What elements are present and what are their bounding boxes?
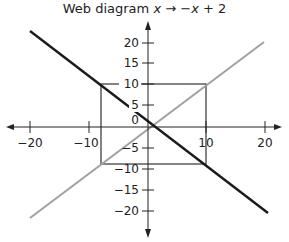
y-label-neg10: −10	[114, 162, 139, 176]
y-label-20: 20	[124, 36, 139, 50]
identity-line	[30, 42, 264, 218]
y-label-10: 10	[124, 77, 139, 91]
function-line	[30, 31, 268, 213]
x-label-neg20: −20	[17, 136, 42, 150]
y-label-5: 5	[131, 98, 139, 112]
x-label-neg10: −10	[73, 136, 98, 150]
y-axis-down-arrow-icon	[145, 229, 151, 238]
x-axis-right-arrow-icon	[274, 124, 282, 130]
y-label-neg5: −5	[121, 141, 139, 155]
y-axis-up-arrow-icon	[145, 21, 151, 30]
x-axis-left-arrow-icon	[6, 124, 14, 130]
y-label-15: 15	[124, 56, 139, 70]
y-label-neg15: −15	[114, 183, 139, 197]
web-diagram-plot: −20 −10 10 20 20 15 10 5 0 −5 −10 −15 −2…	[0, 0, 289, 242]
x-label-10: 10	[198, 136, 213, 150]
y-label-neg20: −20	[114, 204, 139, 218]
y-label-0: 0	[131, 113, 139, 127]
x-label-20: 20	[257, 136, 272, 150]
